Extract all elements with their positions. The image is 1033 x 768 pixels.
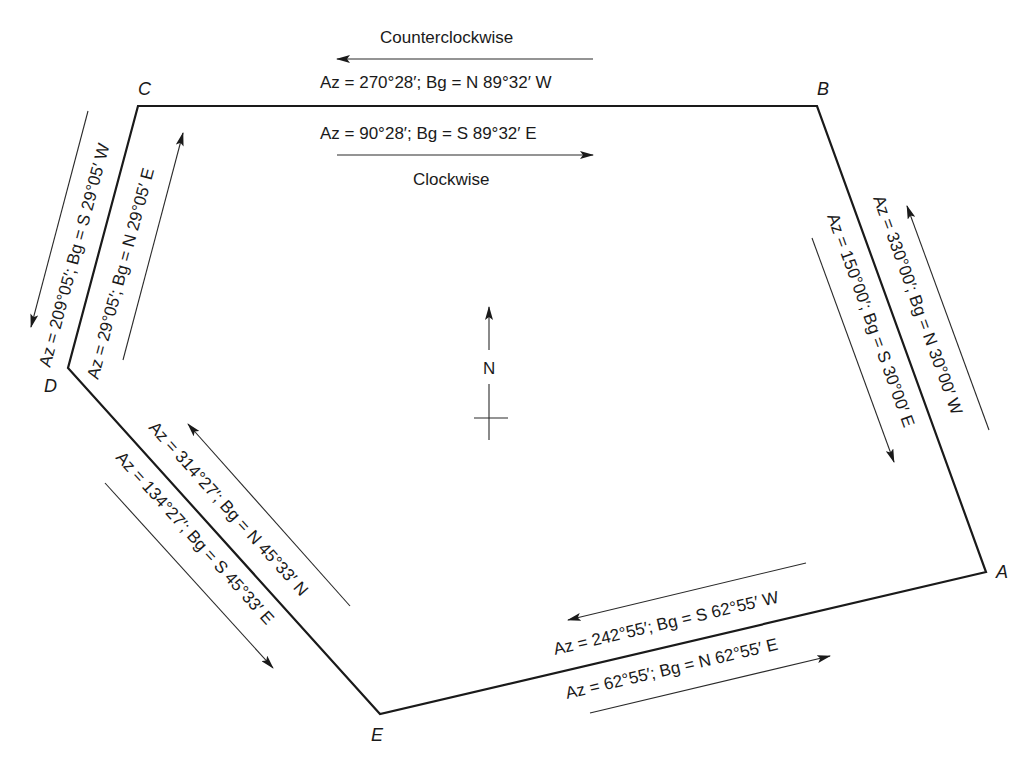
vertex-label-b: B <box>817 79 829 99</box>
vertex-label-e: E <box>371 725 384 745</box>
vertex-label-a: A <box>995 562 1008 582</box>
course-dc-group: Az = 209°05′; Bg = S 29°05′ W Az = 29°05… <box>31 111 183 381</box>
traverse-polygon <box>68 106 986 714</box>
clockwise-label: Clockwise <box>413 170 490 189</box>
course-ed-ccw-arrow-icon <box>188 424 350 606</box>
course-cb-cw-label: Az = 90°28′; Bg = S 89°32′ E <box>320 124 537 143</box>
vertex-label-d: D <box>44 376 57 396</box>
course-ae-group: Az = 242°55′; Bg = S 62°55′ W Az = 62°55… <box>552 563 830 713</box>
traverse-diagram: C B A E D Counterclockwise Az = 270°28′;… <box>0 0 1033 768</box>
counterclockwise-label: Counterclockwise <box>380 28 513 47</box>
course-ed-cw-arrow-icon <box>105 483 273 668</box>
course-cb-ccw-label: Az = 270°28′; Bg = N 89°32′ W <box>320 73 552 92</box>
course-ba-group: Az = 330°00′; Bg = N 30°00′ W Az = 150°0… <box>812 193 989 462</box>
north-label: N <box>483 359 495 378</box>
north-arrow: N <box>474 307 508 440</box>
vertex-label-c: C <box>138 79 152 99</box>
course-ed-group: Az = 314°27′; Bg = N 45°33′ N Az = 134°2… <box>105 418 350 668</box>
